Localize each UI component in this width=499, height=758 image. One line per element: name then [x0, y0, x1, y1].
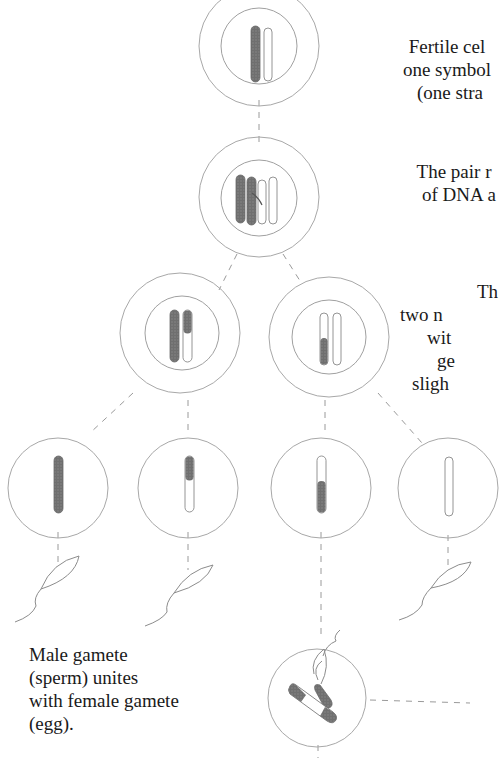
- label-line: (egg).: [29, 712, 249, 735]
- gamete-cell-4: [398, 438, 498, 538]
- fertilized-egg-cell: [268, 630, 366, 747]
- male-gamete-label: Male gamete (sperm) unites with female g…: [29, 643, 249, 735]
- label-line: Male gamete: [29, 643, 249, 666]
- label-line: two n: [397, 303, 499, 326]
- division-cell-left: [120, 273, 240, 393]
- label-line: one symbol: [372, 58, 499, 81]
- chromosome-dark: [236, 175, 245, 223]
- division-label: Th two n wit ge sligh: [397, 280, 499, 395]
- sperm-icon: [15, 556, 79, 622]
- sperm-tail-icon: [323, 630, 340, 656]
- label-line: Fertile cel: [372, 35, 499, 58]
- chromosome-light: [445, 457, 453, 516]
- label-line: (one stra: [372, 81, 499, 104]
- label-line: with female gamete: [29, 689, 249, 712]
- division-cell-right: [269, 277, 389, 397]
- chromosome-dark: [170, 310, 179, 362]
- label-line: ge: [397, 349, 499, 372]
- label-line: wit: [397, 326, 499, 349]
- fertile-cell: [199, 0, 319, 106]
- chromosome-light: [269, 177, 277, 224]
- fertile-cell-label: Fertile cel one symbol (one stra: [372, 35, 499, 104]
- chromosome-light: [258, 180, 266, 224]
- sperm-icon: [145, 565, 213, 626]
- label-line: sligh: [397, 372, 499, 395]
- chromosome-light: [264, 28, 272, 81]
- pair-replicate-label: The pair r of DNA a: [384, 160, 499, 206]
- chromosome-dark: [54, 456, 63, 513]
- gamete-cell-3: [271, 438, 371, 538]
- label-line: of DNA a: [384, 183, 499, 206]
- label-line: The pair r: [384, 160, 499, 183]
- replicated-pair-cell: [199, 137, 319, 257]
- label-line: Th: [397, 280, 499, 303]
- sperm-icon: [399, 562, 471, 620]
- chromosome-dark: [251, 26, 260, 82]
- label-line: (sperm) unites: [29, 666, 249, 689]
- chromosome-dark: [247, 177, 256, 225]
- gamete-cell-2: [138, 438, 238, 538]
- chromosome-light: [333, 313, 341, 365]
- gamete-cell-1: [8, 438, 108, 538]
